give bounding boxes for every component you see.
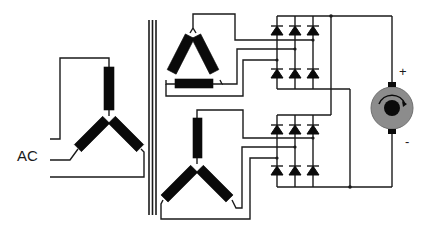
primary-winding-c (108, 116, 143, 151)
diode (289, 125, 301, 134)
circuit-diagram: AC (0, 0, 430, 234)
primary-phase-c-wire (50, 149, 144, 177)
diode (271, 26, 283, 35)
motor-positive-terminal (388, 82, 396, 87)
primary-wye-winding (50, 58, 144, 177)
diode (289, 166, 301, 175)
diode (271, 69, 283, 78)
wye-winding-b (161, 165, 198, 202)
ac-label: AC (17, 147, 38, 164)
diode (271, 166, 283, 175)
delta-winding-left (167, 34, 194, 74)
motor-rotor (384, 100, 400, 116)
wye-winding-a (193, 118, 202, 158)
dc-motor (371, 16, 413, 187)
bridge-interconnect (329, 14, 352, 189)
wye-winding-c (196, 165, 233, 202)
diode (307, 26, 319, 35)
delta-winding-right (192, 34, 219, 74)
diode (289, 26, 301, 35)
diode (307, 69, 319, 78)
positive-label: + (399, 64, 407, 79)
diode (307, 166, 319, 175)
transformer-core (149, 20, 156, 215)
diode (307, 125, 319, 134)
motor-negative-terminal (388, 129, 396, 134)
wye-phase-b-wire (232, 147, 295, 208)
diode (271, 125, 283, 134)
delta-phase-c-wire (166, 60, 277, 96)
primary-phase-b-wire (50, 149, 78, 160)
diode-bridge-lower (271, 115, 392, 187)
negative-label: - (405, 134, 409, 149)
wye-secondary-winding (161, 110, 313, 219)
delta-phase-b-wire (222, 49, 295, 84)
diode (289, 69, 301, 78)
delta-winding-bottom (175, 79, 213, 88)
primary-winding-a (104, 67, 114, 110)
primary-winding-b (74, 116, 109, 151)
